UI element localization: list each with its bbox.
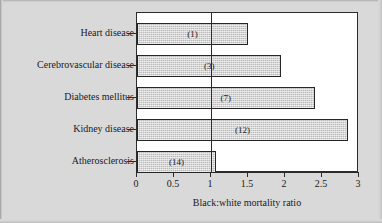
bar-row: (12) [137, 119, 359, 141]
x-tick-label: 3 [343, 178, 373, 189]
x-tick-label: 1.5 [232, 178, 262, 189]
x-tick-label: 0.5 [158, 178, 188, 189]
bar-value-label: (14) [137, 151, 216, 173]
page-edge-right [378, 0, 382, 223]
page-edge-bottom [0, 219, 382, 223]
page-edge-top [0, 0, 382, 3]
bar-value-label: (7) [137, 87, 315, 109]
bar-row: (14) [137, 151, 359, 173]
x-tick-label: 0 [121, 178, 151, 189]
x-tick-label: 1 [195, 178, 225, 189]
bar-value-label: (3) [137, 55, 281, 77]
x-tick-mark [358, 172, 359, 177]
category-label: Diabetes mellitus [0, 91, 134, 103]
x-tick-label: 2.5 [306, 178, 336, 189]
x-tick-label: 2 [269, 178, 299, 189]
bar-row: (1) [137, 23, 359, 45]
category-label: Atherosclerosis [0, 155, 134, 167]
bar-value-label: (1) [137, 23, 248, 45]
category-tick [127, 33, 136, 34]
plot-area: (1)(3)(7)(12)(14) [136, 12, 358, 172]
category-tick [127, 97, 136, 98]
category-tick [127, 161, 136, 162]
category-label: Cerebrovascular disease [0, 59, 134, 71]
x-axis-title: Black:white mortality ratio [136, 197, 358, 208]
category-tick [127, 129, 136, 130]
category-label: Kidney disease [0, 123, 134, 135]
category-label: Heart disease [0, 27, 134, 39]
chart-figure: (1)(3)(7)(12)(14) Heart diseaseCerebrova… [0, 0, 382, 223]
x-tick-mark [284, 172, 285, 177]
bar-row: (3) [137, 55, 359, 77]
category-tick [127, 65, 136, 66]
x-tick-mark [321, 172, 322, 177]
bar-row: (7) [137, 87, 359, 109]
x-tick-mark [247, 172, 248, 177]
bar-value-label: (12) [137, 119, 348, 141]
